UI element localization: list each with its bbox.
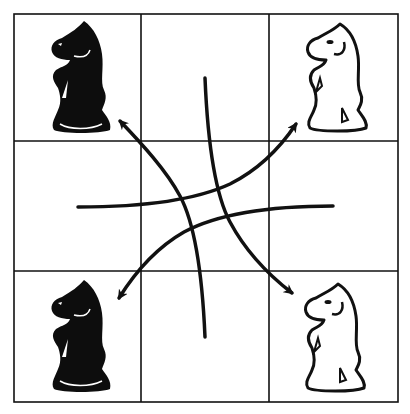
knight-diagram — [0, 0, 410, 414]
arrow-to-top-left — [120, 121, 205, 337]
white-knight-bottom-right-icon — [305, 284, 364, 391]
arrow-to-top-right — [78, 124, 296, 207]
arrow-to-bottom-right — [205, 78, 292, 293]
white-knight-top-right-icon — [307, 24, 366, 131]
arrow-to-bottom-left — [119, 206, 333, 298]
black-knight-bottom-left-icon — [51, 280, 110, 392]
move-arrows — [78, 78, 333, 337]
black-knight-top-left-icon — [51, 21, 110, 133]
